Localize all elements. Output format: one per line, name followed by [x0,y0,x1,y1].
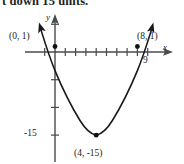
parabola-graph [0,0,184,164]
point-8-1 [135,44,140,49]
figure-screenshot: t down 15 units. [0,0,184,164]
point-label-8-1: (8, 1) [137,31,158,41]
parabola-curve [41,30,151,135]
point-vertex-4-neg15 [94,133,99,138]
x-axis-label: x [163,42,167,52]
point-label-0-1: (0, 1) [9,31,30,41]
y-axis-label: y [46,12,50,22]
y-tick-label-neg15: -15 [24,128,37,138]
point-label-vertex: (4, -15) [74,148,103,158]
x-tick-label-9: 9 [143,55,148,65]
point-0-1 [53,44,58,49]
